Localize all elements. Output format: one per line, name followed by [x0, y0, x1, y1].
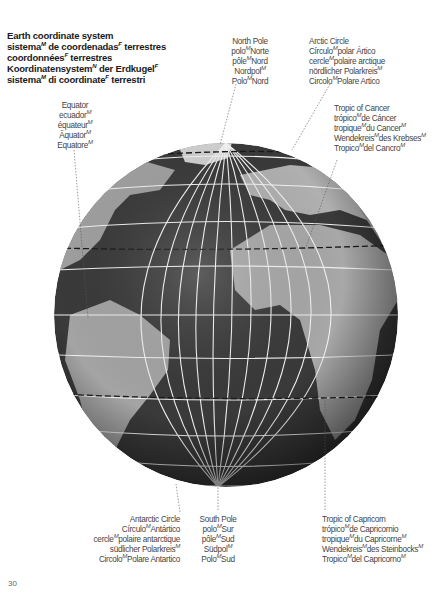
gender-marker: M	[247, 75, 252, 81]
globe-illustration	[0, 0, 436, 596]
arctic-circle-es: CírculoMpolar Ártico	[309, 47, 385, 57]
south-pole-it: PoloMSud	[188, 555, 248, 565]
tropic-capricorn-es: trópicoMde Capricornio	[322, 525, 423, 535]
tropic-cancer-en: Tropic of Cancer	[334, 104, 426, 114]
gender-marker: M	[359, 142, 364, 148]
equator-fr: équateurM	[40, 121, 110, 131]
label-north-pole: North Pole poloMNorte pôleMNord NordpolM…	[205, 37, 295, 87]
equator-es: ecuadorM	[40, 111, 110, 121]
tropic-cancer-fr: tropiqueMdu CancerM	[334, 124, 426, 134]
arctic-circle-it: CircoloMPolare Artico	[309, 77, 385, 87]
tropic-cancer-de: WendekreisMdes KrebsesM	[334, 134, 426, 144]
tropic-cancer-es: trópicoMde Cáncer	[334, 114, 426, 124]
label-arctic-circle: Arctic Circle CírculoMpolar Ártico cercl…	[309, 37, 385, 87]
gender-marker: M	[122, 553, 127, 559]
label-south-pole: South Pole poloMSur pôleMSud SüdpolM Pol…	[188, 515, 248, 565]
gender-marker: M	[86, 109, 91, 115]
tropic-capricorn-en: Tropic of Capricorn	[322, 515, 423, 525]
gender-marker: M	[261, 65, 266, 71]
gender-marker: M	[175, 543, 180, 549]
south-pole-fr: pôleMSud	[188, 535, 248, 545]
arctic-circle-en: Arctic Circle	[309, 37, 385, 47]
gender-marker: M	[228, 543, 233, 549]
label-antarctic-circle: Antarctic Circle CírculoMAntártico cercl…	[30, 515, 180, 565]
gender-marker: M	[400, 142, 405, 148]
gender-marker: M	[377, 65, 382, 71]
gender-marker: M	[114, 533, 119, 539]
gender-marker: M	[216, 533, 221, 539]
gender-marker: M	[356, 112, 361, 118]
antarctic-circle-en: Antarctic Circle	[30, 515, 180, 525]
gender-marker: M	[347, 553, 352, 559]
gender-marker: M	[247, 55, 252, 61]
gender-marker: M	[333, 45, 338, 51]
gender-marker: M	[146, 523, 151, 529]
equator-it: EquatoreM	[40, 141, 110, 151]
equator-de: ÄquatorM	[40, 131, 110, 141]
gender-marker: M	[216, 553, 221, 559]
arctic-circle-de: nördlicher PolarkreisM	[309, 67, 385, 77]
tropic-capricorn-de: WendekreisMdes SteinbocksM	[322, 545, 423, 555]
gender-marker: M	[332, 75, 337, 81]
globe-shading	[54, 143, 398, 487]
gender-marker: M	[329, 55, 334, 61]
gender-marker: M	[361, 122, 366, 128]
equator-en: Equator	[40, 101, 110, 111]
antarctic-circle-fr: cercleMpolaire antarctique	[30, 535, 180, 545]
gender-marker: M	[401, 533, 406, 539]
gender-marker: M	[401, 122, 406, 128]
gender-marker: M	[88, 139, 93, 145]
gender-marker: M	[349, 533, 354, 539]
tropic-capricorn-fr: tropiqueMdu CapricorneM	[322, 535, 423, 545]
gender-marker: M	[418, 543, 423, 549]
page-number: 30	[8, 579, 17, 588]
label-equator: Equator ecuadorM équateurM ÄquatorM Equa…	[40, 101, 110, 151]
gender-marker: M	[88, 119, 93, 125]
antarctic-circle-it: CircoloMPolare Antartico	[30, 555, 180, 565]
label-tropic-of-capricorn: Tropic of Capricorn trópicoMde Capricorn…	[322, 515, 423, 565]
gender-marker: M	[374, 132, 379, 138]
tropic-cancer-it: TropicoMdel CancroM	[334, 144, 426, 154]
gender-marker: M	[362, 543, 367, 549]
gender-marker: M	[344, 523, 349, 529]
globe-surface	[52, 135, 400, 487]
gender-marker: M	[86, 129, 91, 135]
antarctic-circle-de: südlicher PolarkreisM	[30, 545, 180, 555]
tropic-capricorn-it: TropicoMdel CapricornoM	[322, 555, 423, 565]
gender-marker: M	[246, 45, 251, 51]
arctic-circle-fr: cercleMpolaire arctique	[309, 57, 385, 67]
north-pole-it: PoloMNord	[205, 77, 295, 87]
gender-marker: M	[217, 523, 222, 529]
gender-marker: M	[421, 132, 426, 138]
north-pole-fr: pôleMNord	[205, 57, 295, 67]
antarctic-circle-es: CírculoMAntártico	[30, 525, 180, 535]
label-tropic-of-cancer: Tropic of Cancer trópicoMde Cáncer tropi…	[334, 104, 426, 154]
gender-marker: M	[401, 553, 406, 559]
